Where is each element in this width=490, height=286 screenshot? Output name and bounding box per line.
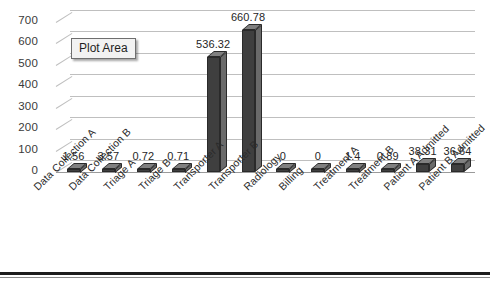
category-label-3: Triage A [101,156,137,192]
y-tick-300: 300 [18,100,38,112]
y-tick-600: 600 [18,35,38,47]
bar-12[interactable] [451,164,464,172]
gridline-600 [70,31,475,32]
y-tick-500: 500 [18,57,38,69]
gridline-connector-600 [56,33,73,44]
figure-bottom-rule-thin [0,277,490,278]
plot-area[interactable]: 7006005004003002001000 1.563.570.720.715… [0,0,490,286]
chart-container: 7006005004003002001000 1.563.570.720.715… [0,0,490,286]
y-tick-200: 200 [18,121,38,133]
gridline-200 [70,117,475,118]
bar-front-face [451,164,464,172]
gridline-connector-300 [56,98,73,109]
y-tick-0: 0 [31,164,38,176]
gridline-connector-200 [56,119,73,130]
plot-area-tooltip: Plot Area [71,38,136,59]
gridline-100 [70,139,475,140]
gridline-300 [70,96,475,97]
bar-value-label-5: 536.32 [187,38,239,50]
y-tick-700: 700 [18,14,38,26]
gridline-connector-400 [56,76,73,87]
gridline-connector-700 [56,12,73,23]
y-tick-400: 400 [18,78,38,90]
gridline-connector-500 [56,55,73,66]
bar-side-face [220,51,227,172]
y-tick-100: 100 [18,143,38,155]
bar-value-label-6: 660.78 [222,11,274,23]
bar-front-face [416,164,429,172]
gridline-400 [70,74,475,75]
bar-11[interactable] [416,164,429,172]
figure-bottom-rule [0,272,490,275]
